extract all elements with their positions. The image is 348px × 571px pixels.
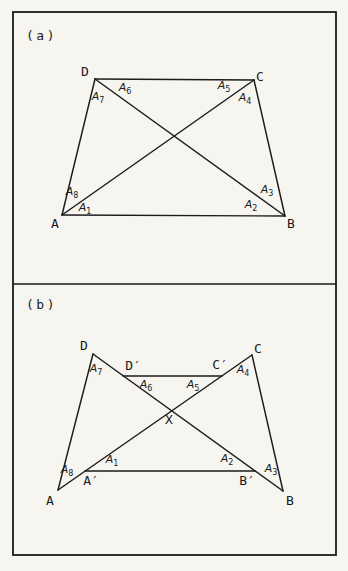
angle-letter: A: [89, 362, 98, 375]
angle-subscript: 1: [113, 458, 118, 467]
two-panel-geometry-figure: (a)ABCDA1A2A3A4A5A6A7A8(b)ABCDD′C′A′B′XA…: [0, 0, 348, 571]
point-label-b-X: X: [165, 412, 173, 427]
angle-letter: A: [186, 378, 195, 391]
angle-label-a-A1: A1: [78, 201, 92, 216]
angle-label-b-A4: A4: [236, 363, 250, 378]
angle-subscript: 4: [246, 96, 251, 105]
angle-subscript: 2: [228, 457, 233, 466]
panel-b: (b)ABCDD′C′A′B′XA1A2A3A4A5A6A7A8: [26, 297, 294, 508]
angle-letter: A: [78, 201, 87, 214]
angle-subscript: 2: [252, 203, 257, 212]
point-label-b-D-prime: D′: [125, 358, 141, 373]
angle-letter: A: [236, 363, 245, 376]
point-label-a-B: B: [287, 216, 295, 231]
angle-subscript: 8: [73, 190, 78, 199]
point-label-a-D: D: [81, 64, 89, 79]
panel-label-a: (a): [26, 28, 57, 43]
angle-letter: A: [220, 452, 229, 465]
angle-subscript: 3: [268, 188, 273, 197]
scanned-figure-page: (a)ABCDA1A2A3A4A5A6A7A8(b)ABCDD′C′A′B′XA…: [0, 0, 348, 571]
angle-letter: A: [244, 198, 253, 211]
point-label-b-C-prime: C′: [212, 357, 228, 372]
angle-letter: A: [118, 81, 127, 94]
panel-label-b: (b): [26, 297, 57, 312]
point-label-b-D: D: [80, 338, 88, 353]
angle-label-b-A3: A3: [264, 462, 278, 477]
angle-label-b-A6: A6: [139, 378, 153, 393]
angle-label-a-A2: A2: [244, 198, 258, 213]
angle-letter: A: [217, 79, 226, 92]
angle-label-b-A8: A8: [60, 463, 74, 478]
angle-letter: A: [65, 185, 74, 198]
a-side-AB: [62, 215, 285, 216]
panel-a: (a)ABCDA1A2A3A4A5A6A7A8: [26, 28, 295, 231]
point-label-b-B: B: [286, 493, 294, 508]
angle-letter: A: [91, 90, 100, 103]
angle-letter: A: [260, 183, 269, 196]
angle-subscript: 6: [147, 383, 152, 392]
angle-subscript: 5: [225, 84, 230, 93]
point-label-a-C: C: [256, 69, 264, 84]
angle-label-a-A5: A5: [217, 79, 231, 94]
angle-subscript: 5: [194, 383, 199, 392]
angle-letter: A: [60, 463, 69, 476]
angle-subscript: 7: [99, 95, 104, 104]
point-label-a-A: A: [51, 216, 59, 231]
angle-label-b-A1: A1: [105, 453, 119, 468]
point-label-b-A: A: [46, 493, 54, 508]
angle-label-b-A7: A7: [89, 362, 103, 377]
angle-letter: A: [238, 91, 247, 104]
angle-label-a-A8: A8: [65, 185, 79, 200]
angle-letter: A: [264, 462, 273, 475]
angle-label-a-A6: A6: [118, 81, 132, 96]
angle-subscript: 8: [68, 468, 73, 477]
point-label-b-A-prime: A′: [83, 473, 99, 488]
angle-subscript: 4: [244, 368, 249, 377]
point-label-b-C: C: [254, 341, 262, 356]
angle-label-a-A3: A3: [260, 183, 274, 198]
angle-subscript: 7: [97, 367, 102, 376]
point-label-b-B-prime: B′: [239, 473, 255, 488]
angle-subscript: 1: [86, 206, 91, 215]
angle-label-a-A4: A4: [238, 91, 252, 106]
angle-label-a-A7: A7: [91, 90, 105, 105]
angle-subscript: 6: [126, 86, 131, 95]
angle-label-b-A5: A5: [186, 378, 200, 393]
angle-letter: A: [105, 453, 114, 466]
a-diagonal-DB: [95, 79, 285, 216]
angle-subscript: 3: [272, 467, 277, 476]
angle-letter: A: [139, 378, 148, 391]
